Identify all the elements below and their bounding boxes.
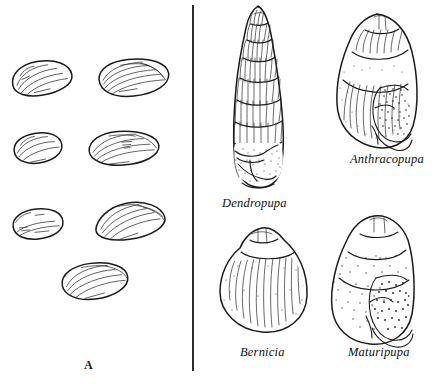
anthracopupa-shell [337,14,417,151]
bivalve-shell-middle-left [12,130,64,166]
figure-plate: A [0,0,446,384]
bernicia-shell [220,228,307,332]
bivalve-shell-upper-right [97,55,170,99]
bivalve-shell-lower-left [12,206,65,241]
maturipupa-shell [332,216,414,347]
taxon-label-dendropupa: Dendropupa [222,196,287,211]
dendropupa-shell [230,6,286,192]
taxon-label-bernicia: Bernicia [240,345,285,360]
bivalve-shell-upper-left [10,56,75,100]
panel-a-drawing [0,0,193,384]
taxon-label-maturipupa: Maturipupa [348,345,410,360]
bivalve-shell-bottom-center [60,259,130,303]
panel-b-drawing [194,0,446,384]
panel-b: B [194,0,446,384]
taxon-label-anthracopupa: Anthracopupa [350,152,424,167]
bivalve-shell-middle-right [88,129,160,168]
panel-a: A [0,0,193,384]
bivalve-shell-lower-right [93,198,167,243]
panel-a-letter: A [84,358,93,373]
